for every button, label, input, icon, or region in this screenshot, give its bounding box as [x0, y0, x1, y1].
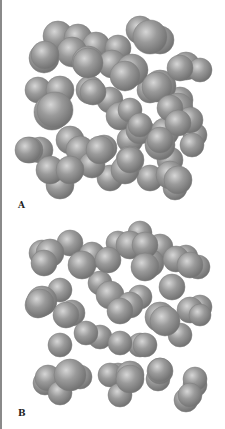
atom-sphere — [37, 92, 73, 128]
atom-sphere — [108, 331, 132, 355]
atom-sphere — [117, 147, 143, 173]
atom-sphere — [56, 156, 84, 184]
atom-sphere — [73, 48, 103, 78]
atom-sphere — [26, 289, 54, 317]
atom-sphere — [74, 321, 98, 345]
atom-sphere — [80, 79, 106, 105]
atom-sphere — [150, 306, 180, 336]
panel-label-b: B — [18, 408, 26, 418]
atom-sphere — [31, 41, 59, 69]
atom-sphere — [177, 252, 203, 278]
atom-sphere — [178, 383, 202, 407]
atom-sphere — [53, 302, 79, 328]
atom-sphere — [148, 358, 172, 382]
atom-sphere — [68, 251, 96, 279]
atom-sphere — [147, 127, 173, 153]
atom-sphere — [107, 298, 133, 324]
molecule-model-a — [0, 0, 225, 215]
panel-b: B — [0, 215, 225, 429]
atom-sphere — [116, 365, 144, 393]
atom-sphere — [128, 113, 152, 137]
atom-sphere — [15, 137, 41, 163]
panel-a: A — [0, 0, 225, 215]
molecule-model-b — [0, 215, 225, 429]
atom-sphere — [31, 250, 57, 276]
atom-sphere — [180, 133, 204, 157]
atom-sphere — [133, 20, 167, 54]
atom-sphere — [133, 333, 157, 357]
atom-sphere — [189, 304, 211, 326]
atom-sphere — [48, 333, 72, 357]
atom-sphere — [167, 55, 193, 81]
atom-sphere — [54, 359, 86, 391]
atom-sphere — [110, 61, 140, 91]
atom-sphere — [86, 136, 114, 164]
atom-sphere — [131, 253, 159, 281]
atom-sphere — [164, 166, 192, 194]
atom-sphere — [159, 274, 185, 300]
panel-label-a: A — [18, 200, 25, 210]
